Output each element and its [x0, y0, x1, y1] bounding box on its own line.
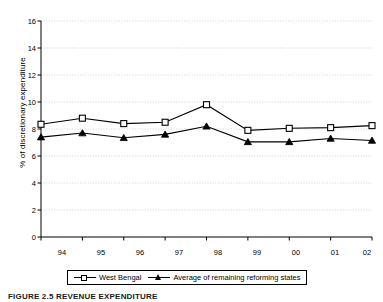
gridlines-group [41, 21, 372, 210]
figure-container: % of discretionary expenditure 16 14 12 … [0, 0, 383, 302]
series-markers-group [37, 102, 375, 145]
axis-group [38, 21, 373, 241]
figure-caption: FIGURE 2.5 REVENUE EXPENDITURE [8, 292, 158, 301]
legend-item-west-bengal[interactable]: West Bengal [74, 273, 141, 282]
legend-label-average-remaining-states: Average of remaining reforming states [173, 273, 300, 282]
line-chart-svg [0, 0, 383, 265]
open-square-marker-icon [74, 273, 96, 282]
filled-triangle-marker-icon [148, 273, 170, 282]
chart-legend: West Bengal Average of remaining reformi… [67, 270, 307, 285]
legend-label-west-bengal: West Bengal [99, 273, 141, 282]
legend-item-average-remaining-states[interactable]: Average of remaining reforming states [148, 273, 300, 282]
chart-plot-area: % of discretionary expenditure 16 14 12 … [0, 0, 383, 265]
